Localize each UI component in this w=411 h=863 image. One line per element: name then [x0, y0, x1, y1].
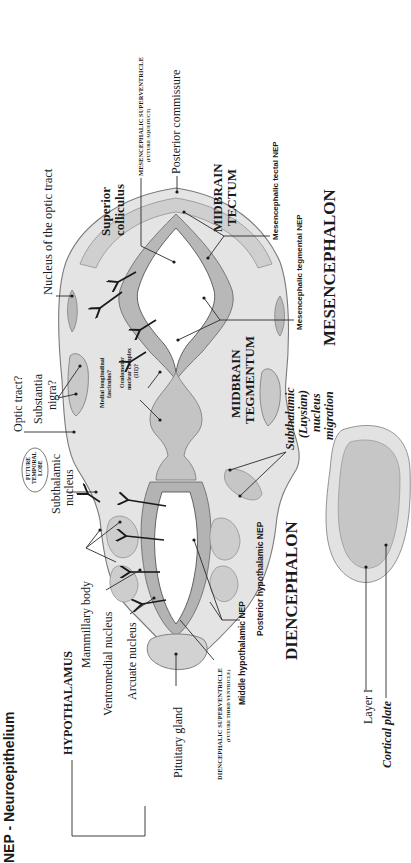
label-posterior-hypothalamic-nep: Posterior hypothalamic NEP — [255, 521, 265, 636]
label-mesencephalon: MESENCEPHALON — [320, 188, 339, 346]
label-nucleus-optic-tract: Nucleus of the optic tract — [41, 168, 55, 295]
label-midbrain-tegmentum-2: TEGMENTUM — [242, 336, 257, 424]
label-mes-tegmental-nep: Mesencephalic tegmental NEP — [295, 214, 304, 330]
future-temporal-lobe-badge: NEP - Neuroepithelium FUTURE TEMPORAL LO… — [22, 448, 48, 492]
label-subthalamic-migration-2: (Luysian) — [296, 390, 310, 438]
label-subthalamic-migration-3: nucleus — [309, 393, 323, 432]
label-dien-superventricle-sub: (FUTURE THIRD VENTRICLE) — [226, 669, 231, 742]
label-oculomotor-3: (III)? — [133, 364, 140, 378]
label-midbrain-tegmentum: MIDBRAIN — [228, 349, 243, 418]
label-lobe: LOBE — [37, 460, 43, 476]
label-layer-1: Layer I — [361, 689, 375, 724]
label-superior-colliculus: Superior — [98, 187, 113, 236]
label-mes-superventricle: MESENCEPHALIC SUPERVENTRICLE — [137, 57, 144, 176]
label-cortical-plate: Cortical plate — [380, 700, 394, 768]
label-midbrain-tectum-2: TECTUM — [224, 169, 239, 226]
neuroanatomy-figure: NEP - Neuroepithelium Nucleus of the opt… — [0, 0, 411, 863]
label-medial-longitudinal: Medial longitudinal — [99, 357, 105, 408]
label-posterior-commissure: Posterior commissure — [169, 70, 183, 174]
label-diencephalon: DIENCEPHALON — [282, 520, 301, 660]
pituitary-gland — [147, 634, 207, 670]
label-superior-colliculus-2: colliculus — [112, 184, 127, 236]
label-mes-superventricle-sub: (FUTURE AQUEDUCT) — [146, 108, 151, 162]
label-substantia-nigra: Substantia — [31, 373, 45, 424]
label-optic-tract: Optic tract? — [11, 376, 25, 432]
label-pituitary-gland: Pituitary gland — [171, 707, 185, 778]
label-hypothalamus: HYPOTHALAMUS — [61, 651, 75, 755]
label-substantia-nigra-2: nigra? — [45, 380, 59, 410]
label-oculomotor: Oculomotor — [119, 357, 125, 388]
label-ventromedial-nucleus: Ventromedial nucleus — [101, 611, 115, 716]
label-subthalamic-migration: Subthalamic — [283, 387, 297, 450]
label-medial-longitudinal-2: fasciculus? — [106, 370, 112, 398]
figure-title: NEP - Neuroepithelium — [1, 712, 17, 863]
label-middle-hypothalamic-nep: Middle hypothalamic NEP — [237, 601, 247, 705]
label-mammillary-body: Mammillary body — [79, 581, 93, 668]
label-subthalamic-nucleus-2: nucleus — [62, 469, 76, 506]
label-oculomotor-2: nuclear complex — [126, 348, 132, 390]
label-dien-superventricle: DIENCEPHALIC SUPERVENTRICLE — [216, 668, 223, 780]
label-midbrain-tectum: MIDBRAIN — [210, 163, 225, 232]
label-mes-tectal-nep: Mesencephalic tectal NEP — [271, 141, 280, 240]
label-subthalamic-migration-4: migration — [322, 391, 336, 440]
brain-section — [59, 188, 411, 670]
label-subthalamic-nucleus: Subthalamic — [49, 454, 63, 514]
label-arcuate-nucleus: Arcuate nucleus — [125, 622, 139, 700]
